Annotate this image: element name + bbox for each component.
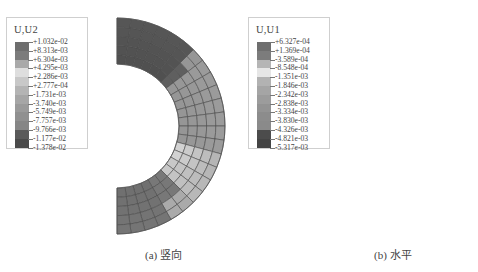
caption: (a) 竖向 <box>145 246 182 262</box>
contour-plot-vertical <box>0 0 240 250</box>
contour-plot-horizontal <box>240 0 478 250</box>
panel-horizontal: U,U1 +6.327e-04+1.369e-04-3.589e-04-8.54… <box>240 0 478 272</box>
caption: (b) 水平 <box>374 246 412 262</box>
panel-vertical: U,U2 +1.032e-02+8.313e-03+6.304e-03+4.29… <box>0 0 240 272</box>
